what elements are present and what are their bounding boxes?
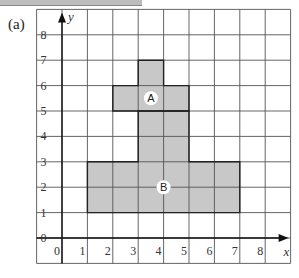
x-tick-label: 5 xyxy=(181,244,187,258)
x-tick-label: 4 xyxy=(156,244,162,258)
y-axis-arrow-icon xyxy=(58,12,66,22)
svg-text:B: B xyxy=(160,181,167,193)
y-tick-label: 4 xyxy=(41,129,47,143)
x-tick-label: 2 xyxy=(105,244,111,258)
y-tick-label: 0 xyxy=(41,231,47,245)
x-tick-label: 7 xyxy=(232,244,238,258)
y-axis-label: y xyxy=(66,9,74,24)
y-tick-label: 5 xyxy=(41,104,47,118)
x-tick-label: 1 xyxy=(79,244,85,258)
y-tick-label: 2 xyxy=(41,180,47,194)
shape-label-a: A xyxy=(144,91,158,105)
y-tick-label: 8 xyxy=(41,28,47,42)
y-tick-label: 3 xyxy=(41,155,47,169)
x-axis-arrow-icon xyxy=(279,234,289,242)
x-tick-label: 8 xyxy=(257,244,263,258)
grid-lines xyxy=(37,9,291,263)
y-tick-label: 6 xyxy=(41,79,47,93)
shape-label-b: B xyxy=(157,180,171,194)
y-tick-label: 7 xyxy=(41,53,47,67)
coordinate-grid: 012345678012345678xyAB xyxy=(0,0,299,278)
x-axis-label: x xyxy=(283,244,290,259)
x-tick-label: 6 xyxy=(206,244,212,258)
x-tick-label: 0 xyxy=(54,244,60,258)
x-tick-label: 3 xyxy=(130,244,136,258)
svg-text:A: A xyxy=(147,92,155,104)
y-tick-label: 1 xyxy=(41,206,47,220)
